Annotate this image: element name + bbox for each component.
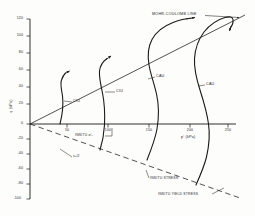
y-tick-label: -80	[7, 182, 23, 186]
curve-ciu-mid-arrow	[106, 56, 111, 60]
insitu-yield-stress-label: INSITU YIELD STRESS	[158, 193, 198, 196]
x-tick-label: 250	[220, 129, 236, 133]
y-tick-label: -60	[7, 167, 23, 171]
curve-ciu-mid	[99, 59, 107, 151]
y-tick-label: -40	[7, 152, 23, 156]
y-tick-label: 120	[7, 17, 23, 21]
y-tick-label: 60	[7, 68, 23, 72]
insitu-stress-label: INSITU STRESS	[150, 177, 178, 180]
mohr-coulomb-leader	[205, 16, 239, 18]
y-tick-label: -20	[7, 137, 23, 141]
x-tick-label: 100	[100, 129, 116, 133]
curve-label-cau-right: CAU	[206, 83, 215, 87]
y-axis-title: q (kPa)	[9, 91, 13, 121]
y-axis-ticks	[27, 19, 31, 199]
x-tick-label: 150	[141, 129, 157, 133]
stress-path-figure: 120 100 80 60 40 20 0 -20 -40 -60 -80 -1…	[0, 0, 255, 216]
x-axis-title: p' (kPa)	[181, 135, 196, 139]
su-over-2-label: sᵤ/2	[73, 155, 80, 158]
mohr-coulomb-label: MOHR-COULOMB LINE	[152, 13, 197, 17]
x-tick-label: 50	[59, 129, 75, 133]
curve-label-ciu-mid: CIU	[116, 90, 123, 94]
y-tick-label: 80	[7, 51, 23, 55]
y-tick-label: 100	[7, 34, 23, 38]
insitu-sigma-v-label: INSITU σ'ᵥ	[75, 134, 93, 137]
curve-cau-right	[194, 17, 233, 185]
curve-label-cau-mid: CAU	[156, 75, 165, 79]
insitu-stress-leader	[146, 170, 149, 178]
y-tick-label: -100	[5, 197, 21, 201]
y-tick-label: 0	[7, 122, 23, 126]
curve-label-ciu-left: CIU	[73, 100, 80, 104]
curve-cau-right-arrow	[230, 26, 232, 31]
x-tick-label: 200	[182, 129, 198, 133]
su-over-2-leader	[60, 149, 72, 157]
su-over-2-line	[30, 124, 240, 198]
insitu-yield-stress-leader	[212, 188, 224, 194]
plot-canvas	[0, 0, 255, 216]
x-axis-ticks	[67, 124, 228, 128]
y-tick-label: 40	[7, 85, 23, 89]
ciu-left-label-leader	[64, 101, 72, 102]
curve-ciu-left-arrow	[65, 71, 70, 74]
curve-ciu-left	[60, 73, 66, 124]
